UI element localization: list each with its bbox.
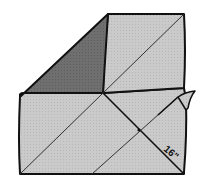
folding-diagram: 16" — [0, 0, 205, 185]
intersection-point — [137, 128, 140, 131]
folded-corner-triangle — [20, 14, 108, 96]
bottom-panel — [19, 88, 186, 174]
